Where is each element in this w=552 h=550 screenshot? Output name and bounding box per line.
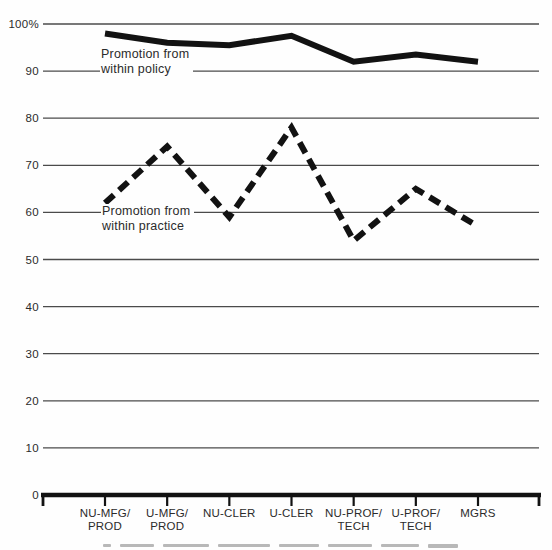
category-label-1: U-MFG/ PROD <box>146 507 188 533</box>
cutoff-text-fragment <box>218 544 270 547</box>
cutoff-text-fragment <box>120 544 154 547</box>
y-tick-label-50: 50 <box>0 253 39 267</box>
y-tick-label-60: 60 <box>0 205 39 219</box>
y-tick-label-10: 10 <box>0 441 39 455</box>
cutoff-text-fragment <box>381 544 419 547</box>
policy-series-annotation: Promotion from within policy <box>100 47 193 77</box>
gridlines <box>43 24 539 448</box>
category-label-6: MGRS <box>460 507 495 520</box>
y-tick-label-0: 0 <box>0 488 39 502</box>
promotion-policy-practice-chart: 100%9080706050403020100 NU-MFG/ PRODU-MF… <box>0 0 552 550</box>
cutoff-text-fragment <box>103 544 111 547</box>
y-tick-label-20: 20 <box>0 394 39 408</box>
cutoff-caption <box>103 544 463 550</box>
y-tick-label-70: 70 <box>0 158 39 172</box>
category-label-2: NU-CLER <box>203 507 256 520</box>
y-tick-label-100: 100% <box>0 17 39 31</box>
practice-series-annotation: Promotion from within practice <box>101 204 194 234</box>
category-label-4: NU-PROF/ TECH <box>325 507 382 533</box>
plot-area <box>0 0 552 550</box>
x-axis <box>41 494 541 506</box>
y-tick-label-80: 80 <box>0 111 39 125</box>
y-tick-label-40: 40 <box>0 300 39 314</box>
category-label-5: U-PROF/ TECH <box>391 507 440 533</box>
cutoff-text-fragment <box>279 544 319 547</box>
category-label-0: NU-MFG/ PROD <box>80 507 131 533</box>
cutoff-text-fragment <box>328 544 372 547</box>
cutoff-text-fragment <box>163 544 209 547</box>
y-tick-label-90: 90 <box>0 64 39 78</box>
y-tick-label-30: 30 <box>0 347 39 361</box>
category-label-3: U-CLER <box>269 507 313 520</box>
cutoff-text-fragment <box>428 544 458 548</box>
